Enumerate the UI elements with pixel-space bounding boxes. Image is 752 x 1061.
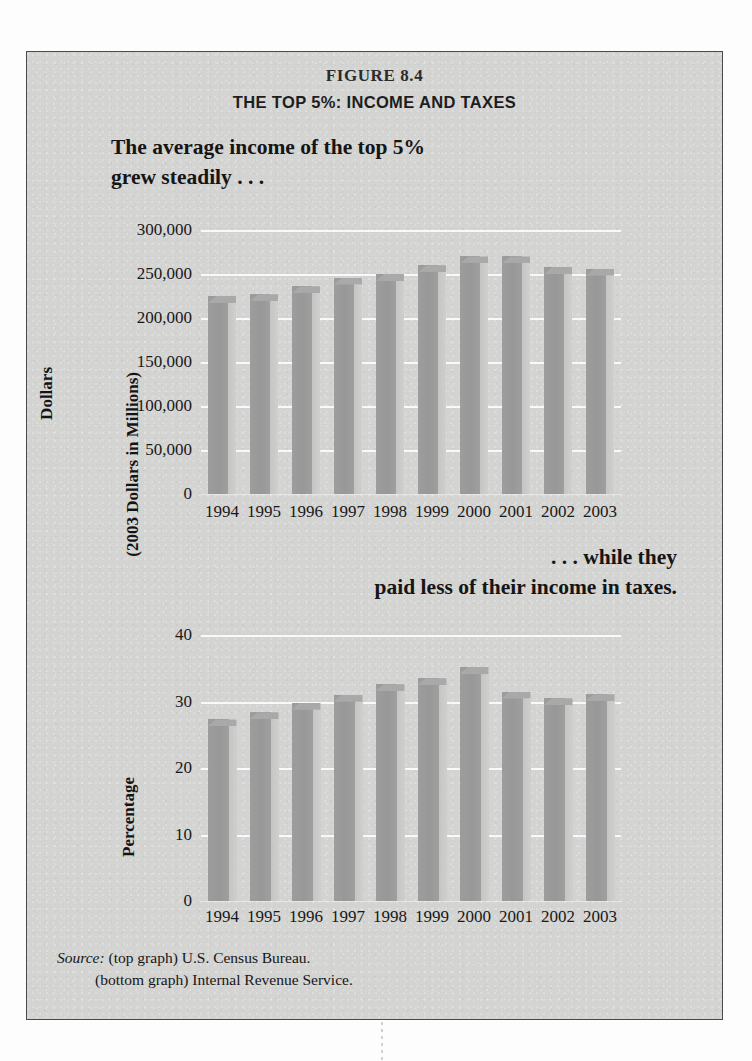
bar-front-face — [586, 694, 607, 901]
bar — [460, 667, 481, 901]
bar-side-face — [355, 702, 363, 901]
bar — [208, 719, 229, 901]
y-axis-tick-label: 0 — [184, 891, 193, 911]
figure-number: FIGURE 8.4 — [27, 66, 722, 86]
bar-side-face — [271, 719, 279, 901]
top-caption-line-1: The average income of the top 5% — [111, 132, 651, 162]
bar — [418, 265, 438, 494]
y-axis-tick-label: 300,000 — [137, 220, 192, 240]
y-axis-tick-label: 40 — [175, 625, 192, 645]
bar — [502, 256, 522, 494]
bar-front-face — [376, 274, 396, 494]
x-axis-tick-label: 1998 — [373, 907, 407, 927]
bar — [292, 703, 313, 901]
bar-side-face — [607, 701, 615, 901]
x-axis-tick-label: 1996 — [289, 907, 323, 927]
x-axis-tick-label: 2000 — [457, 502, 491, 522]
x-axis-tick-label: 1999 — [415, 907, 449, 927]
gridline — [201, 494, 621, 495]
bar — [208, 296, 228, 494]
y-axis-tick-label: 50,000 — [145, 440, 192, 460]
bar-front-face — [292, 286, 312, 494]
x-axis-tick-label: 1996 — [289, 502, 323, 522]
x-axis-tick-label: 1995 — [247, 502, 281, 522]
bar-side-face — [229, 726, 237, 901]
y-axis-tick-label: 200,000 — [137, 308, 192, 328]
figure-title: THE TOP 5%: INCOME AND TAXES — [27, 93, 722, 112]
bar — [334, 695, 355, 901]
gridline — [201, 230, 621, 232]
bar-side-face — [312, 293, 320, 494]
bottom-caption-line-2: paid less of their income in taxes. — [87, 572, 677, 602]
bar-side-face — [480, 263, 488, 494]
income-bar-chart: 050,000100,000150,000200,000250,000300,0… — [201, 230, 621, 494]
bar-front-face — [502, 692, 523, 901]
bar-front-face — [460, 667, 481, 901]
bar-side-face — [565, 705, 573, 901]
bar-side-face — [481, 674, 489, 901]
y-axis-tick-label: 30 — [175, 692, 192, 712]
source-line-1: (top graph) U.S. Census Bureau. — [109, 949, 311, 966]
bar — [460, 256, 480, 494]
bar — [376, 274, 396, 494]
x-axis-tick-label: 2001 — [499, 502, 533, 522]
bar-front-face — [208, 296, 228, 494]
bar — [292, 286, 312, 494]
x-axis-tick-label: 2002 — [541, 907, 575, 927]
top-chart-plot-area: 050,000100,000150,000200,000250,000300,0… — [201, 230, 621, 494]
bar-side-face — [397, 691, 405, 901]
y-axis-tick-label: 0 — [184, 484, 193, 504]
bar-front-face — [208, 719, 229, 901]
x-axis-tick-label: 1995 — [247, 907, 281, 927]
y-axis-tick-label: 150,000 — [137, 352, 192, 372]
bar-side-face — [438, 272, 446, 494]
bottom-caption-line-1: . . . while they — [87, 542, 677, 572]
bar — [586, 269, 606, 494]
bar — [418, 678, 439, 901]
bar — [586, 694, 607, 901]
x-axis-tick-label: 1994 — [205, 502, 239, 522]
top-chart-y-axis-title: Dollars — [37, 367, 57, 420]
source-label: Source: — [57, 949, 105, 966]
gridline — [201, 901, 621, 902]
x-axis-tick-label: 2001 — [499, 907, 533, 927]
bar — [376, 684, 397, 901]
bottom-chart-y-axis-title: Percentage — [119, 777, 139, 857]
bar-front-face — [544, 698, 565, 901]
bar-front-face — [418, 265, 438, 494]
bar — [502, 692, 523, 901]
bar — [250, 712, 271, 901]
y-axis-tick-label: 250,000 — [137, 264, 192, 284]
bar-front-face — [418, 678, 439, 901]
bar-front-face — [292, 703, 313, 901]
bottom-chart-plot-area: 0102030401994199519961997199819992000200… — [201, 635, 621, 901]
bar-side-face — [313, 710, 321, 901]
gridline — [201, 635, 621, 637]
bar-front-face — [586, 269, 606, 494]
top-chart-caption: The average income of the top 5% grew st… — [111, 132, 651, 192]
x-axis-tick-label: 2000 — [457, 907, 491, 927]
x-axis-tick-label: 1997 — [331, 907, 365, 927]
bar-side-face — [523, 699, 531, 901]
bar — [544, 267, 564, 494]
source-note: Source: (top graph) U.S. Census Bureau. … — [57, 947, 353, 991]
bar-front-face — [460, 256, 480, 494]
bar — [544, 698, 565, 901]
bar-side-face — [396, 281, 404, 494]
top-caption-line-2: grew steadily . . . — [111, 162, 651, 192]
bar — [334, 278, 354, 494]
bar-front-face — [544, 267, 564, 494]
bar-front-face — [334, 278, 354, 494]
bar-side-face — [228, 303, 236, 494]
bar-side-face — [606, 276, 614, 494]
bar-side-face — [354, 285, 362, 494]
x-axis-tick-label: 1997 — [331, 502, 365, 522]
bar-side-face — [439, 685, 447, 901]
y-axis-tick-label: 20 — [175, 758, 192, 778]
bar-front-face — [502, 256, 522, 494]
x-axis-tick-label: 2002 — [541, 502, 575, 522]
bar-side-face — [564, 274, 572, 494]
bar-side-face — [522, 263, 530, 494]
scanned-page: FIGURE 8.4 THE TOP 5%: INCOME AND TAXES … — [0, 0, 752, 1061]
figure-frame: FIGURE 8.4 THE TOP 5%: INCOME AND TAXES … — [26, 51, 723, 1020]
